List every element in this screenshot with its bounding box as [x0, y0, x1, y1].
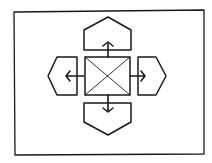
image-placeholder-cross-icon	[85, 57, 130, 95]
panel-up[interactable]	[84, 17, 131, 57]
center-image-placeholder	[85, 57, 130, 95]
outer-frame	[14, 10, 204, 155]
panel-right[interactable]	[130, 57, 166, 95]
arrow-left-icon	[66, 71, 84, 81]
sketch-canvas	[0, 0, 212, 163]
panel-down[interactable]	[84, 95, 131, 135]
panel-left[interactable]	[48, 57, 84, 95]
